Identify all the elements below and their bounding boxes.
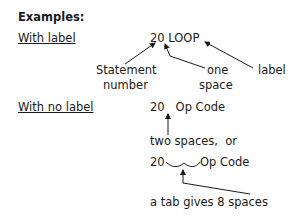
- with-no-label-title: With no label: [18, 102, 94, 114]
- two-spaces-note: two spaces, or: [150, 136, 237, 148]
- tab-note-arrow: [183, 170, 250, 194]
- one-space-arrow: [165, 44, 205, 68]
- statement-number-arrow: [125, 43, 155, 64]
- with-label-code: 20 LOOP: [150, 33, 199, 45]
- with-label-title: With label: [18, 33, 76, 45]
- statement-number-annotation-line2: number: [103, 80, 148, 92]
- tab-note: a tab gives 8 spaces: [150, 197, 268, 209]
- one-space-annotation-line1: one: [207, 65, 228, 77]
- statement-number-annotation-line1: Statement: [96, 65, 157, 77]
- one-space-annotation-line2: space: [199, 80, 233, 92]
- tab-example-prefix: 20: [150, 157, 165, 169]
- tab-brace-icon: [166, 162, 200, 167]
- label-annotation: label: [258, 65, 286, 77]
- with-no-label-code: 20 Op Code: [150, 102, 225, 114]
- heading: Examples:: [18, 12, 84, 24]
- tab-example-suffix: Op Code: [200, 157, 249, 169]
